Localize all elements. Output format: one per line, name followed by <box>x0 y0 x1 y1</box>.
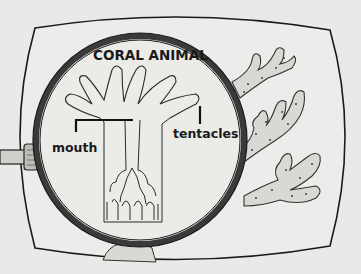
diagram-title: CORAL ANIMAL <box>93 47 208 63</box>
coral-animal-diagram: CORAL ANIMAL mouth tentacles <box>0 0 361 274</box>
label-mouth: mouth <box>52 140 97 155</box>
label-tentacles: tentacles <box>173 126 238 141</box>
magnifier-handle-icon <box>0 144 38 170</box>
